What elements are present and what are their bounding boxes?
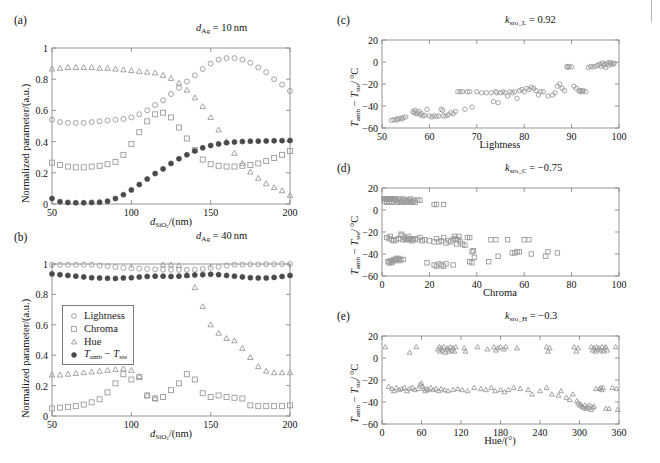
data-point-triangle-open-icon	[462, 346, 467, 350]
plot-area-e	[0, 0, 660, 463]
y-axis-label-e: Tamb − Tste/ °C	[349, 364, 362, 423]
x-tick-label-e: 300	[572, 427, 587, 438]
data-point-triangle-open-icon	[545, 349, 550, 353]
data-point-triangle-open-icon	[586, 405, 591, 409]
data-point-triangle-open-icon	[452, 349, 457, 353]
data-point-triangle-open-icon	[447, 349, 452, 353]
data-point-triangle-open-icon	[478, 386, 483, 390]
data-point-triangle-open-icon	[463, 349, 468, 353]
panel-tag-e: (e)	[337, 310, 350, 322]
data-point-triangle-open-icon	[589, 344, 594, 348]
data-point-triangle-open-icon	[414, 344, 419, 348]
data-point-triangle-open-icon	[491, 344, 496, 348]
data-point-triangle-open-icon	[597, 386, 602, 390]
data-point-triangle-open-icon	[615, 407, 620, 411]
data-point-triangle-open-icon	[407, 350, 412, 354]
data-point-triangle-open-icon	[445, 388, 450, 392]
data-point-triangle-open-icon	[418, 382, 423, 386]
data-point-triangle-open-icon	[399, 386, 404, 390]
x-tick-label-e: 120	[454, 427, 469, 438]
data-point-triangle-open-icon	[453, 344, 458, 348]
data-point-triangle-open-icon	[485, 347, 490, 351]
data-point-triangle-open-icon	[431, 387, 436, 391]
data-point-triangle-open-icon	[455, 386, 460, 390]
data-point-triangle-open-icon	[556, 393, 561, 397]
series-triangle-open	[383, 344, 620, 411]
data-point-triangle-open-icon	[498, 344, 503, 348]
data-point-triangle-open-icon	[439, 386, 444, 390]
data-point-triangle-open-icon	[394, 385, 399, 389]
data-point-triangle-open-icon	[391, 388, 396, 392]
data-point-triangle-open-icon	[502, 390, 507, 394]
x-tick-label-e: 60	[417, 427, 427, 438]
figure-canvas: (a)dAg = 10 nm5010015020000.20.40.60.81d…	[0, 0, 660, 463]
data-point-triangle-open-icon	[582, 403, 587, 407]
data-point-triangle-open-icon	[426, 387, 431, 391]
data-point-triangle-open-icon	[437, 344, 442, 348]
x-tick-label-e: 0	[380, 427, 385, 438]
data-point-triangle-open-icon	[588, 403, 593, 407]
data-point-triangle-open-icon	[419, 381, 424, 385]
data-point-triangle-open-icon	[567, 397, 572, 401]
data-point-triangle-open-icon	[599, 387, 604, 391]
data-point-triangle-open-icon	[592, 404, 597, 408]
data-point-triangle-open-icon	[576, 401, 581, 405]
data-point-triangle-open-icon	[603, 344, 608, 348]
data-point-triangle-open-icon	[501, 347, 506, 351]
data-point-triangle-open-icon	[436, 388, 441, 392]
data-point-triangle-open-icon	[386, 384, 391, 388]
data-point-triangle-open-icon	[495, 346, 500, 350]
data-point-triangle-open-icon	[614, 386, 619, 390]
panel-e: (e)ksro_H = −0.3060120180240300360−60−40…	[0, 0, 660, 463]
data-point-triangle-open-icon	[538, 388, 543, 392]
data-point-triangle-open-icon	[577, 403, 582, 407]
data-point-triangle-open-icon	[549, 392, 554, 396]
data-point-triangle-open-icon	[574, 349, 579, 353]
data-point-triangle-open-icon	[605, 348, 610, 352]
y-tick-label-e: 20	[348, 331, 378, 342]
data-point-triangle-open-icon	[424, 386, 429, 390]
y-tick-label-e: 0	[348, 353, 378, 364]
data-point-triangle-open-icon	[445, 346, 450, 350]
data-point-triangle-open-icon	[594, 386, 599, 390]
data-point-triangle-open-icon	[449, 348, 454, 352]
data-point-triangle-open-icon	[442, 387, 447, 391]
data-point-triangle-open-icon	[576, 346, 581, 350]
data-point-triangle-open-icon	[434, 386, 439, 390]
data-point-triangle-open-icon	[589, 407, 594, 411]
data-point-triangle-open-icon	[593, 349, 598, 353]
x-axis-label-e: Hue/(°)	[484, 435, 516, 446]
data-point-triangle-open-icon	[584, 406, 589, 410]
data-point-triangle-open-icon	[570, 392, 575, 396]
data-point-triangle-open-icon	[428, 385, 433, 389]
data-point-triangle-open-icon	[448, 344, 453, 348]
data-point-triangle-open-icon	[601, 349, 606, 353]
data-point-triangle-open-icon	[578, 402, 583, 406]
axes-frame-e	[382, 336, 619, 424]
data-point-triangle-open-icon	[441, 344, 446, 348]
data-point-triangle-open-icon	[423, 388, 428, 392]
page-edge-rule	[651, 0, 652, 22]
data-point-triangle-open-icon	[526, 387, 531, 391]
data-point-triangle-open-icon	[599, 344, 604, 348]
data-point-triangle-open-icon	[515, 346, 520, 350]
data-point-triangle-open-icon	[489, 385, 494, 389]
data-point-triangle-open-icon	[530, 392, 535, 396]
annotation-e: ksro_H = −0.3	[505, 310, 557, 323]
data-point-triangle-open-icon	[422, 386, 427, 390]
data-point-triangle-open-icon	[610, 385, 615, 389]
data-point-triangle-open-icon	[397, 387, 402, 391]
data-point-triangle-open-icon	[503, 344, 508, 348]
data-point-triangle-open-icon	[613, 344, 618, 348]
data-point-triangle-open-icon	[420, 384, 425, 388]
data-point-triangle-open-icon	[590, 405, 595, 409]
data-point-triangle-open-icon	[493, 348, 498, 352]
data-point-triangle-open-icon	[603, 406, 608, 410]
data-point-triangle-open-icon	[402, 385, 407, 389]
data-point-triangle-open-icon	[607, 406, 612, 410]
data-point-triangle-open-icon	[472, 385, 477, 389]
data-point-triangle-open-icon	[598, 385, 603, 389]
data-point-triangle-open-icon	[460, 387, 465, 391]
data-point-triangle-open-icon	[594, 344, 599, 348]
x-tick-label-e: 360	[612, 427, 627, 438]
